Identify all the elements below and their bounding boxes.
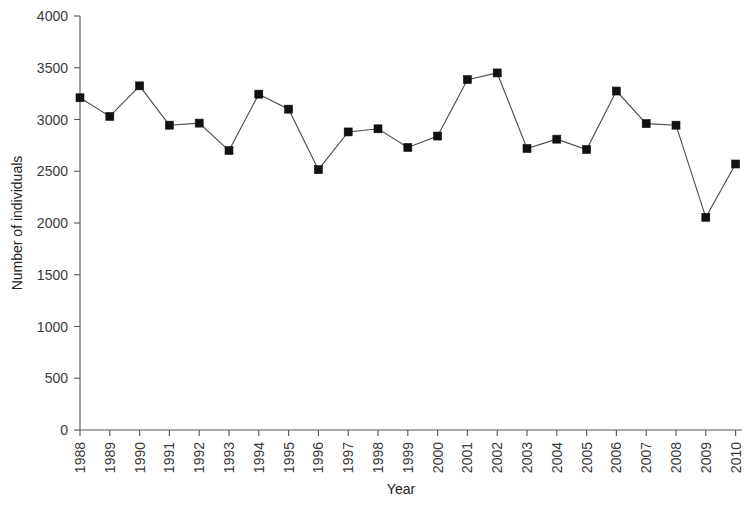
data-point-marker: [732, 160, 740, 168]
x-axis-tick-label: 1990: [132, 442, 148, 473]
data-point-marker: [702, 213, 710, 221]
data-point-marker: [374, 125, 382, 133]
x-axis-tick-label: 2006: [608, 442, 624, 473]
data-point-marker: [285, 105, 293, 113]
data-point-marker: [404, 143, 412, 151]
y-axis-tick-label: 3500: [37, 60, 68, 76]
data-point-marker: [642, 120, 650, 128]
x-axis-tick-label: 2001: [459, 442, 475, 473]
data-point-marker: [106, 112, 114, 120]
x-axis-tick-label: 1991: [161, 442, 177, 473]
data-point-marker: [225, 147, 233, 155]
data-point-marker: [314, 166, 322, 174]
x-axis-tick-label: 1997: [340, 442, 356, 473]
x-axis-tick-label: 2009: [698, 442, 714, 473]
y-axis-tick-label: 500: [45, 370, 69, 386]
data-point-marker: [76, 94, 84, 102]
x-axis-tick-label: 2003: [519, 442, 535, 473]
data-series: [76, 69, 740, 221]
y-axis-tick-label: 3000: [37, 112, 68, 128]
data-point-marker: [523, 144, 531, 152]
y-axis-title: Number of individuals: [9, 156, 25, 291]
line-chart: 05001000150020002500300035004000 1988198…: [0, 0, 748, 505]
data-point-marker: [553, 135, 561, 143]
data-point-marker: [136, 82, 144, 90]
x-axis-tick-label: 1993: [221, 442, 237, 473]
x-axis-tick-label: 2002: [489, 442, 505, 473]
x-axis-tick-label: 2005: [579, 442, 595, 473]
data-point-marker: [583, 146, 591, 154]
x-axis-tick-label: 2000: [430, 442, 446, 473]
x-axis-tick-label: 2008: [668, 442, 684, 473]
y-axis-tick-label: 1000: [37, 319, 68, 335]
y-axis-tick-label: 4000: [37, 8, 68, 24]
data-point-marker: [434, 132, 442, 140]
data-point-marker: [255, 90, 263, 98]
x-axis-tick-label: 1992: [191, 442, 207, 473]
y-axis-tick-label: 2000: [37, 215, 68, 231]
x-axis-tick-label: 1994: [251, 442, 267, 473]
x-axis-title: Year: [387, 481, 416, 497]
x-axis-tick-label: 1988: [72, 442, 88, 473]
data-point-marker: [672, 121, 680, 129]
x-axis-tick-label: 1998: [370, 442, 386, 473]
x-axis: 1988198919901991199219931994199519961997…: [72, 430, 744, 473]
data-point-marker: [344, 128, 352, 136]
x-axis-tick-label: 1999: [400, 442, 416, 473]
data-point-marker: [493, 69, 501, 77]
y-axis: 05001000150020002500300035004000: [37, 8, 80, 438]
data-point-marker: [165, 121, 173, 129]
x-axis-tick-label: 2010: [728, 442, 744, 473]
data-point-marker: [195, 119, 203, 127]
y-axis-tick-label: 1500: [37, 267, 68, 283]
chart-plot-area: 05001000150020002500300035004000 1988198…: [0, 0, 748, 505]
x-axis-tick-label: 2007: [638, 442, 654, 473]
x-axis-tick-label: 1995: [281, 442, 297, 473]
x-axis-tick-label: 2004: [549, 442, 565, 473]
x-axis-tick-label: 1989: [102, 442, 118, 473]
y-axis-tick-label: 2500: [37, 163, 68, 179]
data-point-marker: [612, 87, 620, 95]
y-axis-tick-label: 0: [60, 422, 68, 438]
x-axis-tick-label: 1996: [310, 442, 326, 473]
data-point-marker: [463, 76, 471, 84]
